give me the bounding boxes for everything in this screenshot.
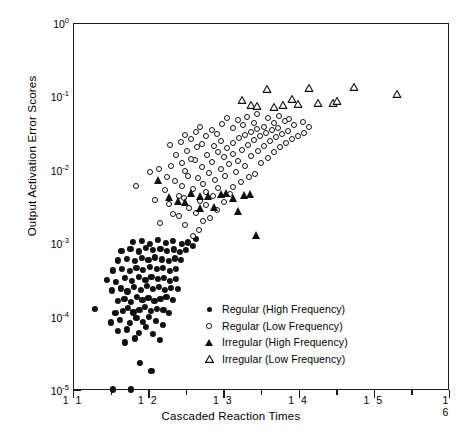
data-point — [224, 145, 230, 151]
data-point — [265, 115, 271, 121]
data-point — [130, 239, 136, 245]
legend: Regular (High Frequency)Regular (Low Fre… — [196, 301, 348, 367]
y-tick-label: 10-1 — [51, 90, 69, 104]
data-point — [242, 132, 248, 138]
data-point — [115, 298, 121, 304]
data-point — [304, 84, 313, 92]
data-point — [147, 264, 153, 270]
data-point — [237, 96, 246, 104]
data-point — [234, 207, 242, 215]
data-point — [263, 130, 269, 136]
data-point — [148, 274, 154, 280]
data-point — [157, 220, 163, 226]
data-point — [156, 166, 162, 172]
data-point — [138, 287, 144, 293]
data-point — [301, 130, 307, 136]
data-point — [181, 198, 189, 206]
legend-item: Irregular (High Frequency) — [196, 334, 348, 351]
data-point — [313, 99, 322, 107]
data-point — [203, 133, 209, 139]
data-point — [291, 122, 297, 128]
data-point — [179, 183, 185, 189]
data-point — [122, 339, 128, 345]
data-point — [221, 154, 227, 160]
data-point — [193, 129, 199, 135]
data-point — [239, 147, 245, 153]
legend-label: Regular (High Frequency) — [222, 303, 345, 315]
data-point — [150, 247, 156, 253]
data-point — [222, 173, 228, 179]
data-point — [306, 124, 312, 130]
data-point — [118, 285, 124, 291]
data-point — [128, 386, 134, 392]
data-point — [147, 240, 153, 246]
data-point — [246, 190, 254, 198]
data-point — [136, 330, 142, 336]
data-point — [219, 121, 225, 127]
legend-marker-filled-circle-icon — [196, 307, 222, 312]
data-point — [179, 160, 185, 166]
data-point — [124, 288, 130, 294]
data-point — [295, 133, 301, 139]
data-point — [300, 119, 306, 125]
data-point — [246, 174, 252, 180]
data-point — [182, 132, 188, 138]
x-tick-minor — [411, 390, 412, 395]
legend-item: Regular (High Frequency) — [196, 301, 348, 318]
data-point — [152, 254, 158, 260]
data-point — [294, 100, 303, 108]
data-point — [152, 197, 158, 203]
data-point — [182, 222, 188, 228]
data-point — [113, 278, 119, 284]
data-point — [209, 159, 215, 165]
data-point — [175, 286, 181, 292]
data-point — [233, 169, 239, 175]
data-point — [199, 141, 205, 147]
data-point — [160, 322, 166, 328]
legend-marker-filled-triangle-icon — [196, 339, 222, 346]
data-point — [244, 114, 250, 120]
data-point — [188, 136, 194, 142]
data-point — [163, 240, 169, 246]
data-point — [240, 122, 246, 128]
data-point — [109, 287, 115, 293]
data-point — [251, 137, 257, 143]
legend-marker-open-triangle-icon — [196, 355, 222, 363]
y-tick-label: 10-4 — [51, 310, 69, 324]
data-point — [154, 306, 160, 312]
data-point — [167, 142, 173, 148]
data-point — [196, 227, 202, 233]
data-point — [200, 181, 206, 187]
data-point — [110, 386, 116, 392]
data-point — [124, 326, 130, 332]
data-point — [333, 97, 342, 105]
data-point — [235, 117, 241, 123]
data-point — [276, 113, 282, 119]
data-point — [267, 138, 273, 144]
x-tick-label: 1 5 — [363, 394, 384, 406]
data-point — [285, 128, 291, 134]
data-point — [136, 274, 142, 280]
y-tick-label: 100 — [53, 16, 69, 30]
data-point — [221, 199, 227, 205]
data-point — [172, 266, 178, 272]
data-point — [224, 115, 230, 121]
data-point — [131, 284, 137, 290]
data-point — [245, 142, 251, 148]
data-point — [127, 246, 133, 252]
data-point — [166, 201, 172, 207]
data-point — [157, 246, 163, 252]
data-point — [115, 328, 121, 334]
data-point — [257, 133, 263, 139]
data-point — [252, 171, 258, 177]
data-point — [190, 243, 196, 249]
data-point — [146, 314, 152, 320]
data-point — [273, 134, 279, 140]
data-point — [210, 203, 218, 211]
data-point — [289, 136, 295, 142]
data-point — [148, 367, 154, 373]
data-point — [349, 83, 358, 91]
data-point — [211, 143, 217, 149]
data-point — [218, 138, 224, 144]
data-point — [133, 183, 139, 189]
